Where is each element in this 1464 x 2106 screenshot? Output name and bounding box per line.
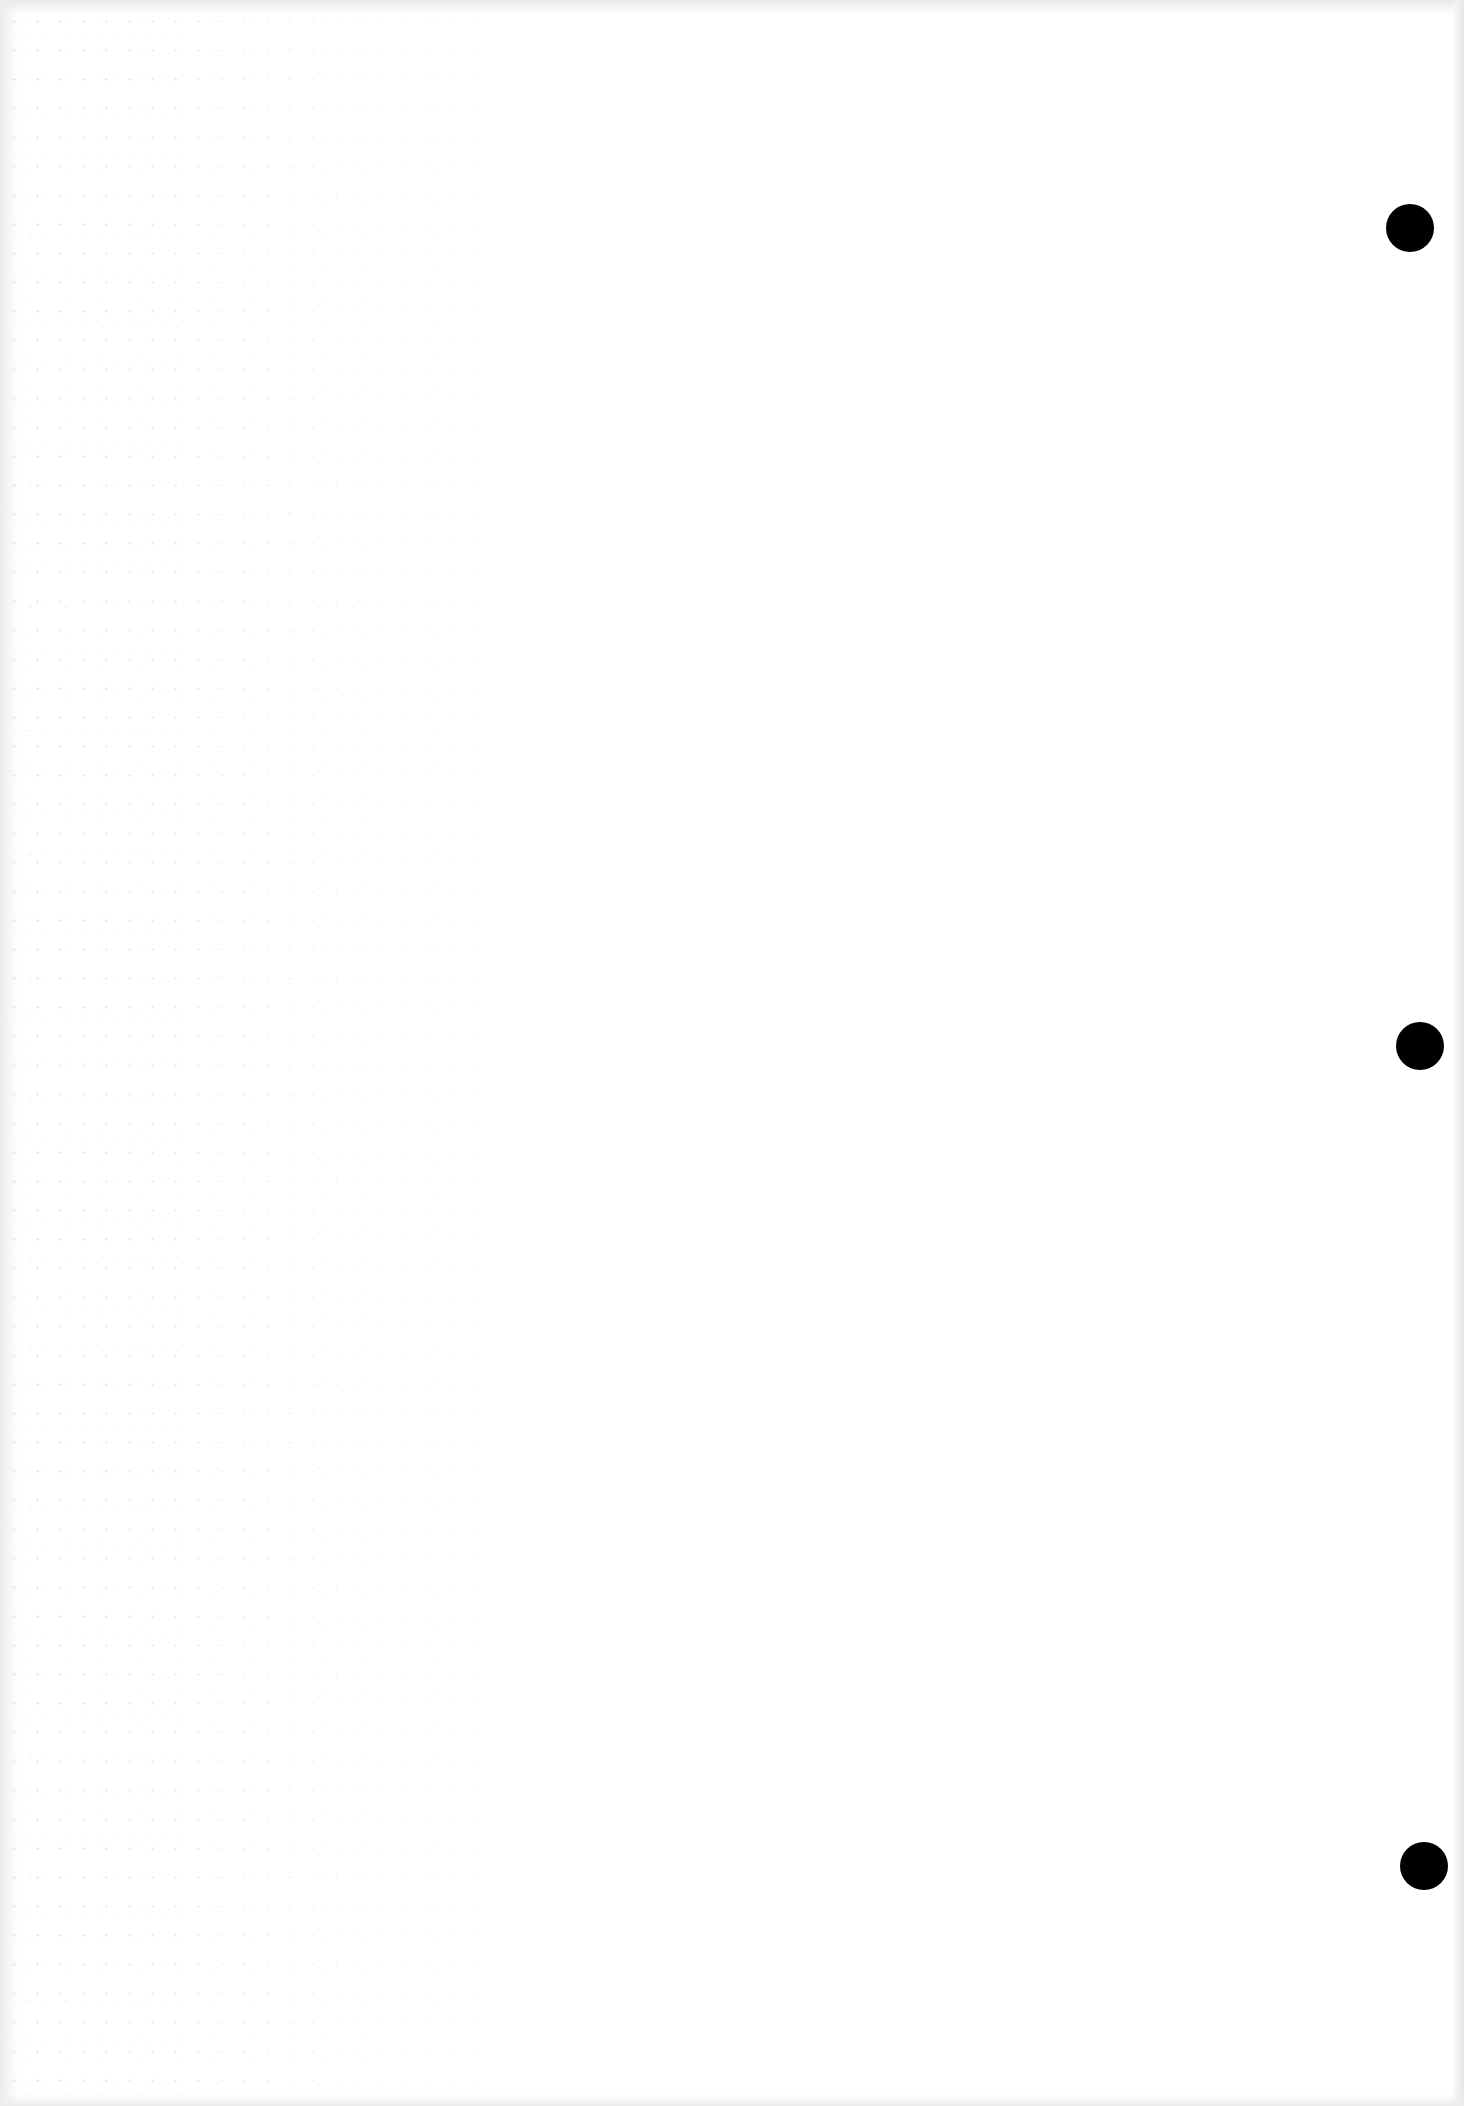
punch-hole-top: [1386, 204, 1434, 252]
scanned-page: [0, 0, 1464, 2106]
scan-edge-right: [1452, 0, 1464, 2106]
scan-edge-top: [0, 0, 1464, 14]
punch-hole-middle: [1396, 1022, 1444, 1070]
scan-noise: [0, 0, 560, 2106]
scan-edge-left: [0, 0, 18, 2106]
punch-hole-bottom: [1400, 1842, 1448, 1890]
scan-edge-bottom: [0, 2094, 1464, 2106]
